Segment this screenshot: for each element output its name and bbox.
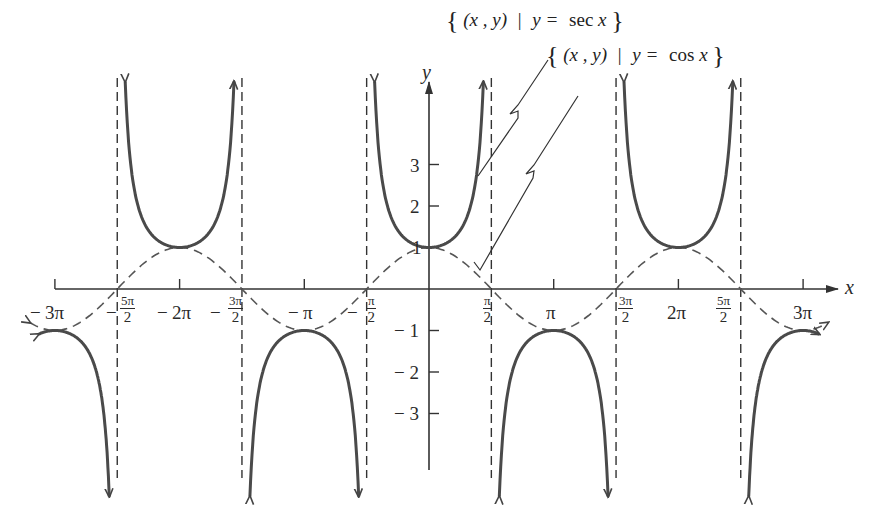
x-tick-neg2pi: 2π — [172, 303, 191, 322]
x-axis — [55, 279, 838, 289]
x-tick-negpi-minus: − — [288, 303, 299, 322]
x-tick-negpi2: π 2 — [367, 294, 376, 325]
y-axis-label: y — [422, 62, 431, 82]
cos-annotation: { (x , y) | y = cos x } — [546, 43, 725, 69]
x-tick-3pi: 3π — [793, 303, 812, 322]
x-tick-5pi2: 5π 2 — [716, 294, 731, 325]
y-tick-neg3: − 3 — [394, 404, 419, 423]
x-tick-neg5pi2-minus: − — [106, 303, 117, 322]
x-tick-neg3pi2-minus: − — [210, 303, 221, 322]
sec-branch — [749, 331, 820, 497]
x-axis-label: x — [845, 277, 854, 297]
x-tick-pi2: π 2 — [483, 294, 492, 325]
x-tick-neg3pi-minus: − — [30, 303, 41, 322]
y-tick-1: 1 — [412, 238, 422, 257]
x-tick-neg2pi-minus: − — [157, 303, 168, 322]
sec-branch — [250, 331, 359, 497]
y-tick-neg1: − 1 — [394, 321, 419, 340]
sec-branch — [39, 331, 110, 497]
y-tick-2: 2 — [410, 197, 420, 216]
sec-branch — [125, 82, 234, 248]
x-tick-2pi: 2π — [667, 303, 686, 322]
x-tick-neg5pi2: 5π 2 — [120, 294, 135, 325]
sec-branch — [499, 331, 608, 497]
y-axis — [429, 82, 439, 470]
chart-canvas — [0, 0, 881, 511]
y-tick-neg2: − 2 — [394, 363, 419, 382]
sec-annotation: { (x , y) | y = sec x } — [446, 8, 624, 34]
x-tick-negpi2-minus: − — [347, 303, 358, 322]
x-tick-negpi: π — [303, 303, 313, 322]
y-tick-3: 3 — [410, 156, 420, 175]
cos-leader-line — [474, 96, 578, 270]
annotation-leaders — [474, 60, 578, 270]
x-tick-neg3pi: 3π — [45, 303, 64, 322]
x-tick-3pi2: 3π 2 — [618, 294, 633, 325]
sec-branch — [624, 82, 733, 248]
x-tick-neg3pi2: 3π 2 — [228, 294, 243, 325]
x-tick-pi: π — [546, 303, 556, 322]
